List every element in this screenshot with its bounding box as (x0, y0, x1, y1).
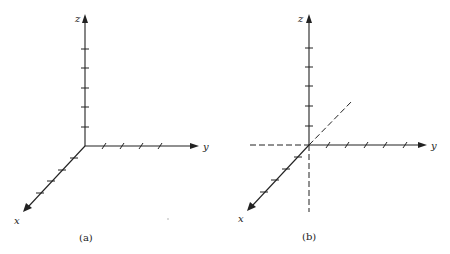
panel-b: z y x (b) (238, 13, 437, 242)
y-axis-label: y (430, 140, 437, 151)
coordinate-axes-figure: z y x (a) z y x (b) (0, 0, 450, 254)
panel-a-caption: (a) (79, 232, 93, 243)
z-axis-label: z (297, 13, 304, 24)
x-axis (28, 146, 85, 207)
z-arrowhead-icon (82, 14, 88, 23)
z-axis-label: z (74, 13, 81, 24)
panel-b-caption: (b) (302, 231, 316, 242)
x-axis-label: x (14, 215, 20, 226)
x-axis (252, 145, 309, 206)
y-arrowhead-icon (190, 143, 199, 149)
x-axis-label: x (238, 213, 244, 224)
y-arrowhead-icon (418, 142, 427, 148)
scan-speck (167, 218, 168, 219)
y-axis-label: y (202, 141, 209, 152)
panel-a: z y x (a) (14, 13, 209, 243)
negative-x-axis-dashed (309, 100, 353, 145)
z-arrowhead-icon (306, 14, 312, 23)
